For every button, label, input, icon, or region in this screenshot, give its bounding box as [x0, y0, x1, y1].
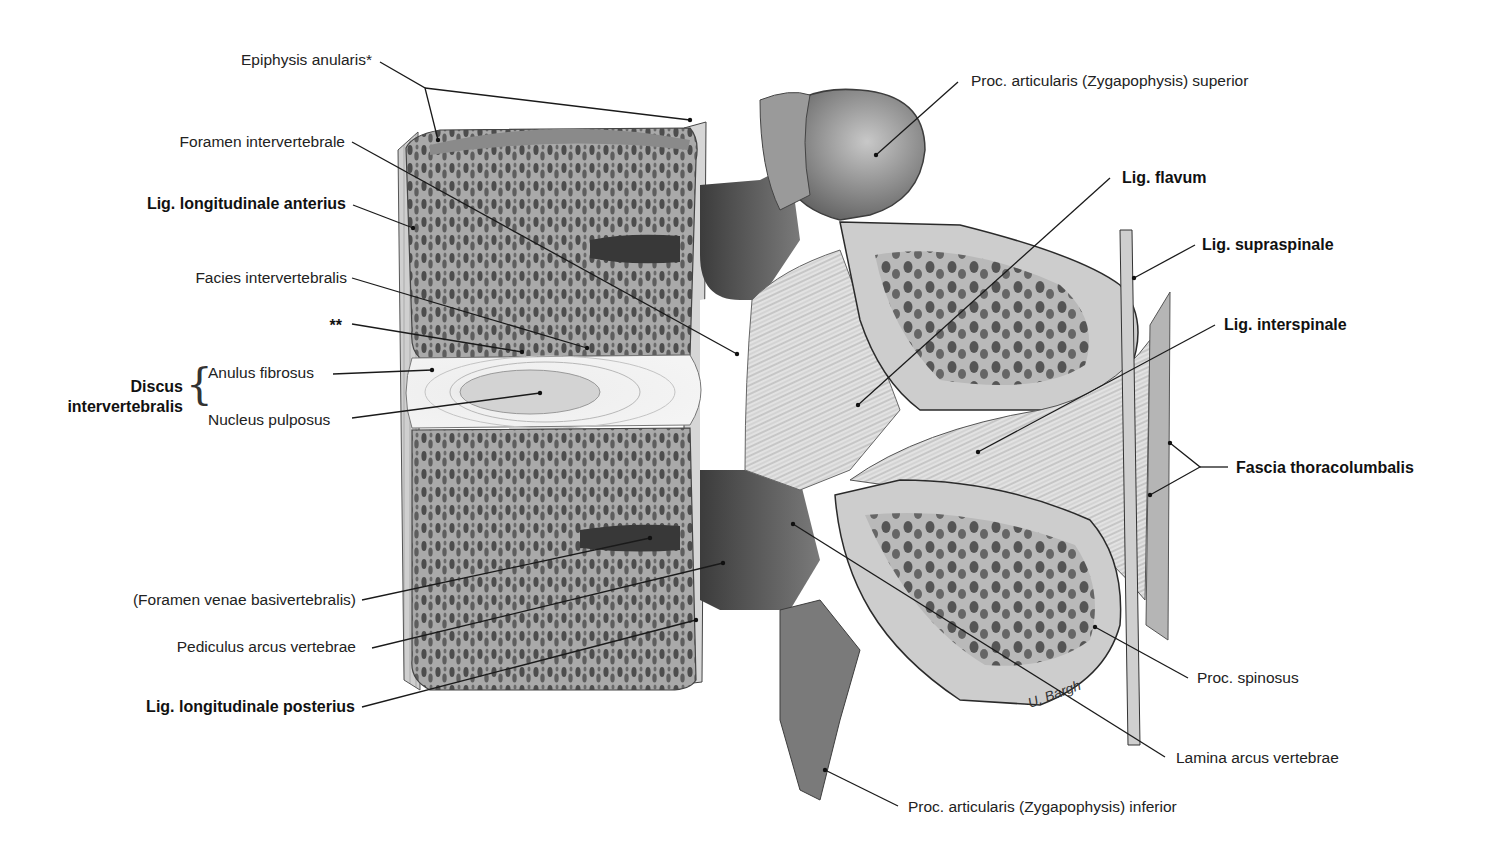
label-discus-line2: intervertebralis	[67, 398, 183, 416]
label-anulus-fibrosus: Anulus fibrosus	[208, 364, 314, 382]
label-proc-articularis-superior: Proc. articularis (Zygapophysis) superio…	[971, 72, 1248, 90]
label-lig-longitudinale-posterius: Lig. longitudinale posterius	[146, 698, 355, 716]
label-double-asterisk: **	[330, 317, 342, 335]
label-lamina-arcus-vertebrae: Lamina arcus vertebrae	[1176, 749, 1339, 767]
label-lig-supraspinale: Lig. supraspinale	[1202, 236, 1334, 254]
label-discus-line1: Discus	[131, 378, 183, 396]
label-proc-articularis-inferior: Proc. articularis (Zygapophysis) inferio…	[908, 798, 1177, 816]
anatomy-figure: U. Bargh	[0, 0, 1510, 858]
label-lig-longitudinale-anterius: Lig. longitudinale anterius	[147, 195, 346, 213]
label-pediculus-arcus-vertebrae: Pediculus arcus vertebrae	[177, 638, 356, 656]
label-epiphysis-anularis: Epiphysis anularis*	[241, 51, 372, 69]
label-lig-flavum: Lig. flavum	[1122, 169, 1206, 187]
vertebrae-illustration: U. Bargh	[0, 0, 1510, 858]
label-fascia-thoracolumbalis: Fascia thoracolumbalis	[1236, 459, 1414, 477]
label-facies-intervertebralis: Facies intervertebralis	[195, 269, 347, 287]
label-foramen-intervertebrale: Foramen intervertebrale	[180, 133, 345, 151]
label-nucleus-pulposus: Nucleus pulposus	[208, 411, 330, 429]
label-lig-interspinale: Lig. interspinale	[1224, 316, 1347, 334]
label-proc-spinosus: Proc. spinosus	[1197, 669, 1299, 687]
label-foramen-venae-basivertebralis: (Foramen venae basivertebralis)	[133, 591, 356, 609]
